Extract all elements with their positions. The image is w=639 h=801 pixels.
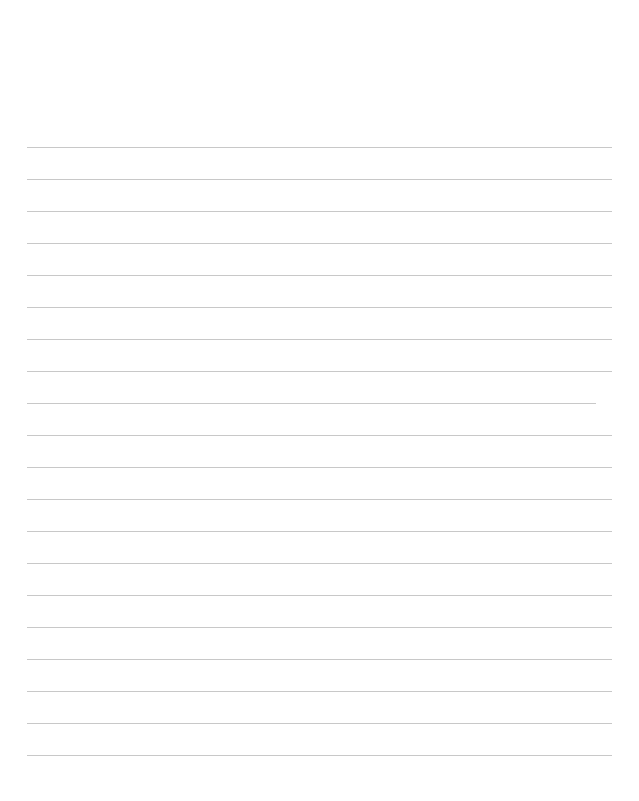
ruled-line [27, 339, 612, 340]
ruled-line [27, 691, 612, 692]
ruled-line [27, 723, 612, 724]
ruled-line [27, 755, 612, 756]
ruled-line [27, 211, 612, 212]
ruled-line [27, 595, 612, 596]
ruled-line [27, 147, 612, 148]
ruled-line [27, 179, 612, 180]
ruled-line [27, 659, 612, 660]
ruled-line [27, 403, 596, 404]
ruled-line [27, 499, 612, 500]
ruled-line [27, 627, 612, 628]
ruled-line [27, 467, 612, 468]
ruled-line [27, 307, 612, 308]
ruled-line [27, 243, 612, 244]
ruled-line [27, 371, 612, 372]
ruled-line [27, 275, 612, 276]
lined-paper-page [0, 0, 639, 801]
ruled-line [27, 435, 612, 436]
ruled-line [27, 531, 612, 532]
ruled-line [27, 563, 612, 564]
